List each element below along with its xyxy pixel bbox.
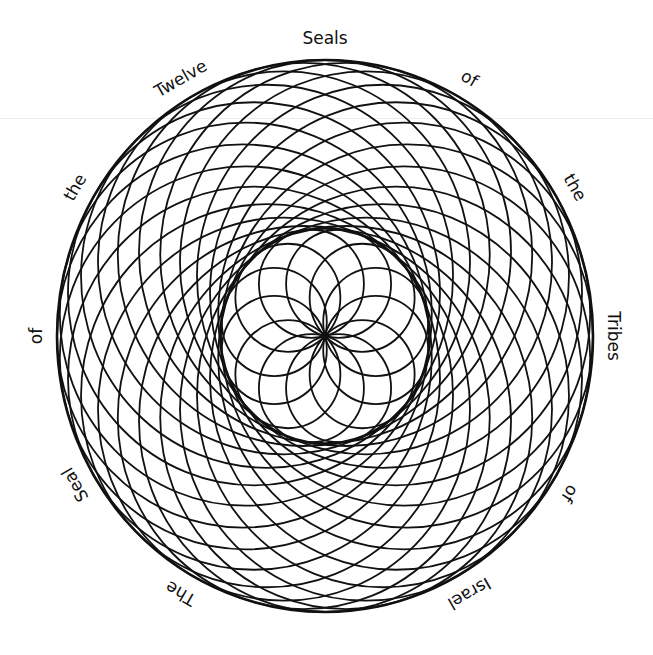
title-word: Seal [57,464,93,506]
title-word: the [560,170,591,204]
title-word: of [26,327,46,344]
large-circle [197,204,569,587]
title-word: Tribes [604,310,624,361]
circle-pattern [57,60,593,612]
large-circle [81,204,453,587]
title-word: of [457,66,482,92]
title-word: The [162,577,200,611]
large-circle [197,85,569,468]
seal-diagram: SealsoftheTribesofIsraelTheSealoftheTwel… [0,0,653,655]
title-word: the [59,170,90,204]
large-circle [81,85,453,468]
title-word: Seals [302,28,347,48]
title-word: of [557,481,583,506]
